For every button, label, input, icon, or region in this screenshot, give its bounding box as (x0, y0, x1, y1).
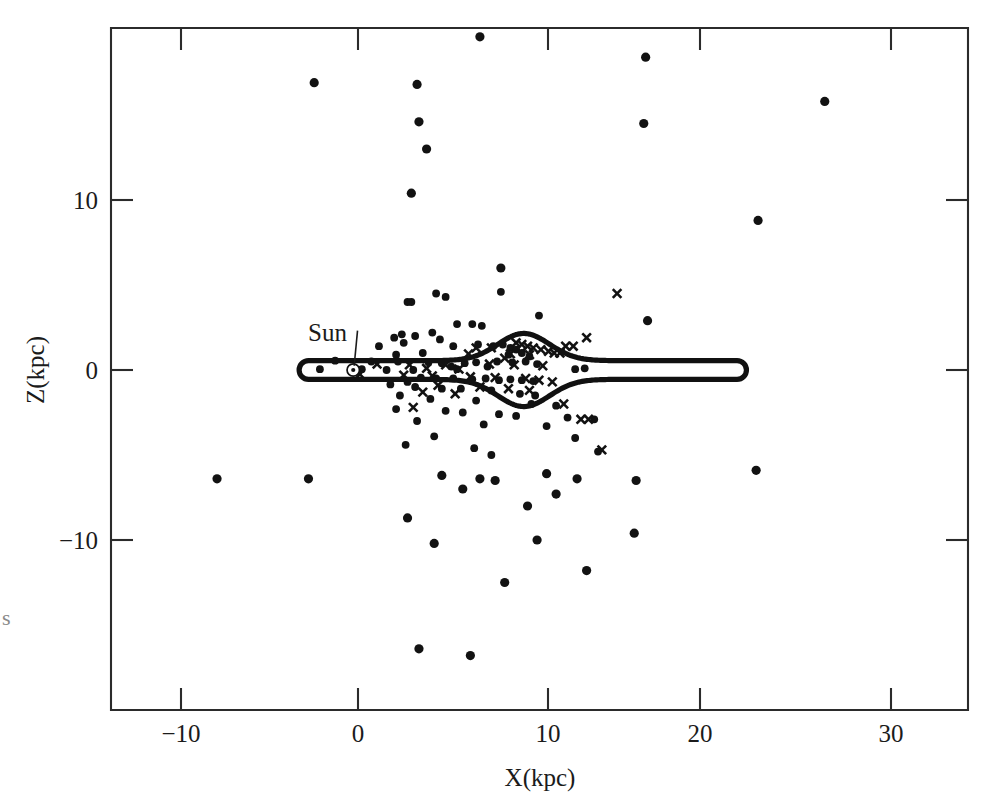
data-marker-point (552, 490, 561, 499)
data-marker-point (512, 412, 520, 420)
data-marker-cross (451, 390, 460, 399)
data-marker-point (495, 410, 503, 418)
data-marker-point (571, 365, 579, 373)
data-marker-point (523, 501, 532, 510)
data-marker-point (581, 364, 589, 372)
data-marker-point (432, 290, 440, 298)
data-marker-point (442, 293, 450, 301)
x-tick-label: 10 (536, 720, 561, 747)
data-marker-point (582, 566, 591, 575)
data-marker-point (422, 144, 431, 153)
data-marker-point (466, 651, 475, 660)
data-marker-point (507, 375, 515, 383)
data-marker-point (487, 451, 495, 459)
page-edge-artifact: s (2, 605, 11, 630)
data-marker-cross (582, 333, 591, 342)
data-marker-point (428, 329, 436, 337)
data-marker-point (535, 312, 543, 320)
data-marker-point (516, 390, 524, 398)
data-marker-point (458, 484, 467, 493)
data-marker-point (453, 320, 461, 328)
data-marker-cross (559, 400, 568, 409)
sun-label: Sun (308, 319, 347, 346)
data-marker-point (820, 97, 829, 106)
data-marker-point (639, 119, 648, 128)
data-marker-point (400, 339, 408, 347)
y-tick-labels: 10 0 −10 (59, 187, 98, 554)
x-tick-label: 0 (352, 720, 365, 747)
x-tick-labels: −10 0 10 20 30 (161, 720, 903, 747)
data-marker-point (407, 298, 415, 306)
data-marker-point (402, 441, 410, 449)
data-marker-point (753, 216, 762, 225)
x-axis-ticks (181, 28, 891, 710)
data-marker-point (383, 366, 391, 374)
data-marker-point (475, 32, 484, 41)
data-marker-point (407, 189, 416, 198)
data-marker-point (396, 392, 404, 400)
data-marker-cross (418, 388, 427, 397)
data-marker-point (532, 535, 541, 544)
scatter-plot-svg: −10 0 10 20 30 10 0 −10 X(kpc) Z(kpc) s (0, 0, 988, 798)
data-marker-point (752, 466, 761, 475)
y-tick-label: −10 (59, 527, 98, 554)
data-markers (212, 32, 829, 660)
data-marker-point (398, 330, 406, 338)
figure-root: −10 0 10 20 30 10 0 −10 X(kpc) Z(kpc) s (0, 0, 988, 798)
data-marker-point (572, 474, 581, 483)
data-marker-point (552, 402, 560, 410)
y-tick-label: 10 (73, 187, 98, 214)
y-axis-title: Z(kpc) (22, 336, 50, 404)
data-marker-point (468, 320, 476, 328)
data-marker-point (436, 336, 444, 344)
data-marker-point (310, 78, 319, 87)
data-marker-point (426, 395, 434, 403)
data-marker-point (411, 332, 419, 340)
data-marker-cross (409, 403, 418, 412)
data-marker-point (437, 471, 446, 480)
data-marker-point (564, 414, 572, 422)
data-marker-point (304, 474, 313, 483)
data-marker-point (571, 434, 579, 442)
data-marker-point (491, 476, 500, 485)
data-marker-point (643, 316, 652, 325)
data-marker-point (472, 358, 480, 366)
data-marker-point (411, 383, 419, 391)
data-marker-point (414, 117, 423, 126)
data-marker-cross (537, 345, 546, 354)
data-marker-point (497, 288, 505, 296)
data-marker-point (212, 474, 221, 483)
data-marker-point (500, 578, 509, 587)
data-marker-point (641, 53, 650, 62)
data-marker-point (442, 407, 450, 415)
data-marker-point (470, 444, 478, 452)
data-marker-point (392, 405, 400, 413)
data-marker-point (412, 80, 421, 89)
data-marker-point (413, 417, 421, 425)
data-marker-point (480, 421, 488, 429)
data-marker-cross (548, 378, 557, 387)
data-marker-point (543, 422, 551, 430)
data-marker-point (430, 539, 439, 548)
y-tick-label: 0 (86, 357, 99, 384)
data-marker-cross (613, 289, 622, 298)
data-marker-point (542, 469, 551, 478)
data-marker-point (419, 349, 427, 357)
x-tick-label: −10 (161, 720, 200, 747)
data-marker-point (375, 342, 383, 350)
data-marker-point (449, 342, 457, 350)
sun-marker (347, 364, 359, 376)
data-marker-cross (525, 386, 534, 395)
data-marker-point (496, 263, 505, 272)
x-axis-title: X(kpc) (505, 764, 576, 792)
data-marker-point (430, 432, 438, 440)
data-marker-cross (569, 342, 578, 351)
data-marker-point (475, 474, 484, 483)
data-marker-cross (504, 384, 513, 393)
data-marker-point (482, 375, 490, 383)
data-marker-point (630, 529, 639, 538)
x-tick-label: 30 (879, 720, 904, 747)
data-marker-point (478, 322, 486, 330)
data-marker-point (316, 365, 324, 373)
data-marker-point (472, 397, 480, 405)
